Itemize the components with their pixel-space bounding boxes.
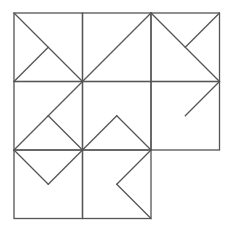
diagonal-segment bbox=[117, 150, 151, 184]
diagonal-segment bbox=[117, 116, 151, 150]
diagonal-segment bbox=[14, 150, 48, 184]
diagonal-segment bbox=[48, 116, 82, 150]
diagonal-segment bbox=[83, 116, 117, 150]
diagonal-segment bbox=[117, 184, 151, 218]
diagonal-segments bbox=[14, 13, 220, 219]
diagonal-segment bbox=[14, 116, 48, 150]
diagonal-segment bbox=[48, 150, 82, 184]
diagonal-segment bbox=[185, 13, 219, 47]
diagonal-segment bbox=[48, 13, 151, 116]
diagonal-segment bbox=[14, 47, 48, 81]
diagonal-segment bbox=[185, 82, 219, 116]
tangram-grid-diagram bbox=[0, 0, 233, 237]
